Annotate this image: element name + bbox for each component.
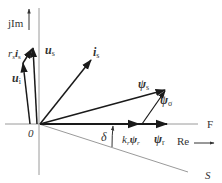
label-psi-r: ψr [154, 132, 165, 147]
vector-u-s [33, 48, 37, 124]
line-S [39, 124, 188, 172]
phasor-diagram: jIm us rsis ui is ψs ψσ 0 δ krψr ψr Re F… [0, 0, 222, 183]
label-origin: 0 [28, 127, 34, 139]
label-u-i: ui [12, 71, 22, 86]
label-rs-is: rsis [8, 47, 21, 61]
label-u-s: us [45, 43, 55, 58]
label-kr-psi-r: krψr [122, 133, 140, 147]
delta-angle-arc [112, 126, 113, 147]
label-F: F [207, 118, 213, 130]
label-delta: δ [101, 130, 107, 144]
vector-u-i [23, 63, 30, 124]
label-i-s: is [93, 45, 99, 60]
label-jim: jIm [7, 17, 24, 29]
label-re: Re [177, 135, 189, 147]
label-psi-s: ψs [138, 77, 149, 92]
vector-i-s [40, 60, 91, 124]
label-S: S [205, 169, 211, 181]
label-psi-sigma: ψσ [160, 93, 173, 108]
vector-rs-is [23, 49, 32, 63]
